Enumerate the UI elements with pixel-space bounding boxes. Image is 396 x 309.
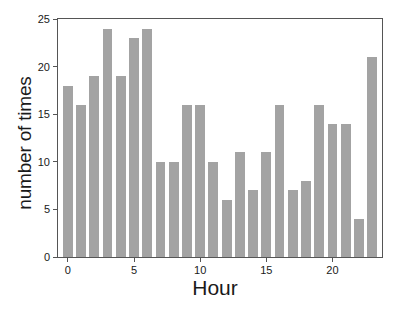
bar [288,190,298,257]
x-axis-title: Hour [55,276,375,300]
bar [182,105,192,257]
x-tick-label: 0 [54,264,82,276]
bar [248,190,258,257]
x-tick-label: 15 [252,264,280,276]
x-tick-mark [67,258,68,262]
x-tick-mark [200,258,201,262]
bar [156,162,166,257]
bar [116,76,126,257]
y-tick-label: 15 [38,106,50,122]
bar [169,162,179,257]
y-tick-label: 10 [38,154,50,170]
bar [63,86,73,257]
bar [142,29,152,257]
bar [129,38,139,257]
bar [235,152,245,257]
y-tick-label: 25 [38,11,50,27]
bar [341,124,351,257]
bar [261,152,271,257]
x-tick-label: 20 [318,264,346,276]
x-tick-label: 10 [186,264,214,276]
bar [222,200,232,257]
bar [367,57,377,257]
y-axis-title: number of times [8,8,42,278]
y-tick-label: 0 [44,249,50,265]
bar [314,105,324,257]
x-tick-mark [134,258,135,262]
bar [195,105,205,257]
y-tick-label: 5 [44,201,50,217]
bar [76,105,86,257]
bar [89,76,99,257]
y-tick-label: 20 [38,59,50,75]
bar [208,162,218,257]
bar [103,29,113,257]
bar-chart-figure: number of times 0510152025 05101520 Hour [0,0,396,309]
x-tick-mark [266,258,267,262]
bars-group [58,19,382,257]
bar [354,219,364,257]
bar [301,181,311,257]
bar [275,105,285,257]
x-tick-mark [332,258,333,262]
x-tick-label: 5 [120,264,148,276]
bar [328,124,338,257]
